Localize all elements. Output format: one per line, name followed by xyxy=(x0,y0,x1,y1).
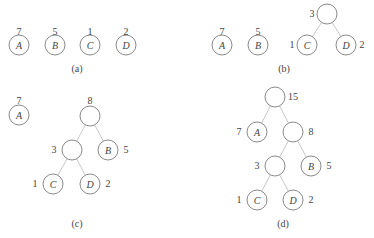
node-letter: A xyxy=(218,40,226,51)
node-circle xyxy=(317,4,337,24)
panel-caption: (d) xyxy=(277,218,289,230)
node-letter: D xyxy=(288,195,297,206)
internal-node: 3 xyxy=(255,156,286,176)
leaf-node-c: C1 xyxy=(33,174,64,194)
leaf-node-d: D2 xyxy=(80,174,111,194)
internal-node: 8 xyxy=(283,122,314,142)
node-letter: C xyxy=(87,40,94,51)
node-weight: 3 xyxy=(310,8,315,19)
node-letter: D xyxy=(341,40,350,51)
node-weight: 7 xyxy=(220,26,225,37)
node-letter: A xyxy=(15,40,23,51)
leaf-node-b: B5 xyxy=(301,156,332,176)
node-circle xyxy=(80,106,100,126)
panel-caption: (a) xyxy=(71,63,82,75)
node-letter: D xyxy=(85,179,94,190)
internal-node: 8 xyxy=(80,95,100,126)
node-letter: C xyxy=(304,40,311,51)
node-weight: 15 xyxy=(288,91,298,102)
internal-node: 3 xyxy=(52,140,83,160)
leaf-node-d: D2 xyxy=(116,26,136,55)
panel-c: A783B5C1D2(c) xyxy=(9,95,129,230)
node-weight: 1 xyxy=(290,39,295,50)
internal-node: 15 xyxy=(265,87,298,107)
node-weight: 3 xyxy=(255,160,260,171)
node-letter: B xyxy=(52,40,58,51)
node-circle xyxy=(62,140,82,160)
leaf-node-b: B5 xyxy=(98,140,129,160)
node-weight: 5 xyxy=(256,26,261,37)
node-weight: 1 xyxy=(88,26,93,37)
node-weight: 5 xyxy=(124,144,129,155)
node-letter: A xyxy=(15,110,23,121)
leaf-node-c: C1 xyxy=(80,26,100,55)
huffman-tree-figure: A7B5C1D2(a)A7B53C1D2(b)A783B5C1D2(c)15A7… xyxy=(0,0,374,238)
node-weight: 2 xyxy=(360,39,365,50)
node-letter: B xyxy=(308,161,314,172)
node-weight: 8 xyxy=(309,126,314,137)
node-weight: 1 xyxy=(237,194,242,205)
leaf-node-a: A7 xyxy=(212,26,232,55)
node-weight: 2 xyxy=(106,178,111,189)
node-letter: B xyxy=(105,145,111,156)
leaf-node-a: A7 xyxy=(9,26,29,55)
panel-d: 15A783B5C1D2(d) xyxy=(237,87,332,230)
panel-b: A7B53C1D2(b) xyxy=(212,4,365,75)
node-letter: C xyxy=(50,179,57,190)
node-letter: D xyxy=(121,40,130,51)
panel-caption: (b) xyxy=(278,63,290,75)
panel-caption: (c) xyxy=(71,218,82,230)
node-weight: 5 xyxy=(53,26,58,37)
leaf-node-c: C1 xyxy=(290,35,318,55)
panel-a: A7B5C1D2(a) xyxy=(9,26,136,75)
node-weight: 7 xyxy=(237,126,242,137)
node-weight: 8 xyxy=(88,95,93,106)
leaf-node-b: B5 xyxy=(248,26,268,55)
leaf-node-a: A7 xyxy=(9,95,29,125)
node-letter: C xyxy=(254,195,261,206)
node-letter: B xyxy=(255,40,261,51)
node-circle xyxy=(283,122,303,142)
leaf-node-b: B5 xyxy=(45,26,65,55)
node-weight: 7 xyxy=(17,26,22,37)
node-circle xyxy=(265,87,285,107)
node-weight: 2 xyxy=(124,26,129,37)
internal-node: 3 xyxy=(310,4,338,24)
node-circle xyxy=(265,156,285,176)
leaf-node-d: D2 xyxy=(336,35,365,55)
node-weight: 1 xyxy=(33,178,38,189)
node-weight: 2 xyxy=(309,194,314,205)
node-weight: 5 xyxy=(327,160,332,171)
node-weight: 7 xyxy=(17,95,22,106)
node-weight: 3 xyxy=(52,144,57,155)
leaf-node-a: A7 xyxy=(237,122,268,142)
leaf-node-c: C1 xyxy=(237,190,268,210)
node-letter: A xyxy=(253,127,261,138)
leaf-node-d: D2 xyxy=(283,190,314,210)
